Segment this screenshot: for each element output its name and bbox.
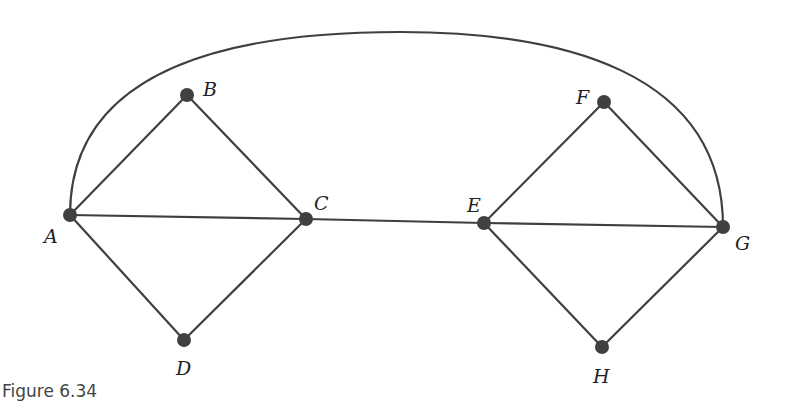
graph-diagram: A B C D E F G H bbox=[0, 0, 790, 411]
node-C bbox=[299, 212, 313, 226]
edge-B-C bbox=[187, 95, 306, 219]
node-B bbox=[180, 88, 194, 102]
edge-A-D bbox=[70, 215, 184, 340]
node-G bbox=[716, 220, 730, 234]
edge-C-E bbox=[306, 219, 484, 223]
node-H bbox=[595, 340, 609, 354]
node-D bbox=[177, 333, 191, 347]
edge-E-G bbox=[484, 223, 723, 227]
node-F bbox=[597, 95, 611, 109]
label-A: A bbox=[42, 225, 58, 247]
edge-E-F bbox=[484, 102, 604, 223]
node-A bbox=[63, 208, 77, 222]
label-D: D bbox=[175, 357, 191, 379]
edge-D-C bbox=[184, 219, 306, 340]
label-C: C bbox=[314, 192, 329, 214]
label-G: G bbox=[735, 232, 750, 254]
edge-E-H bbox=[484, 223, 602, 347]
label-B: B bbox=[202, 78, 217, 100]
edge-A-C bbox=[70, 215, 306, 219]
figure-caption: Figure 6.34 bbox=[2, 381, 97, 401]
edge-A-G-arc bbox=[70, 32, 723, 227]
edge-F-G bbox=[604, 102, 723, 227]
label-F: F bbox=[575, 86, 590, 108]
node-E bbox=[477, 216, 491, 230]
label-H: H bbox=[592, 365, 610, 387]
edge-H-G bbox=[602, 227, 723, 347]
label-E: E bbox=[466, 194, 481, 216]
edge-A-B bbox=[70, 95, 187, 215]
